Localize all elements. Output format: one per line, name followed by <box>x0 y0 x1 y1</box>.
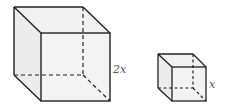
small-cube <box>158 54 206 101</box>
cubes-diagram: 2x x <box>0 0 228 110</box>
small-cube-edge-label: x <box>209 78 216 91</box>
large-cube-edge-label: 2x <box>112 63 127 76</box>
large-cube <box>14 7 110 101</box>
